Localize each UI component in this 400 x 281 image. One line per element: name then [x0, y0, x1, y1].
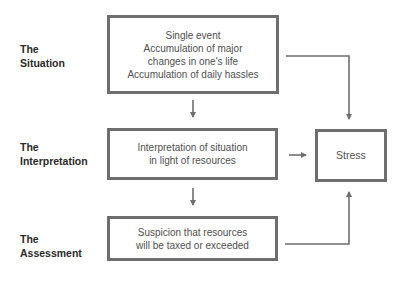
connectors	[0, 0, 400, 281]
arrow-elbow-down-icon	[286, 56, 349, 119]
arrow-elbow-up-icon	[285, 192, 349, 244]
